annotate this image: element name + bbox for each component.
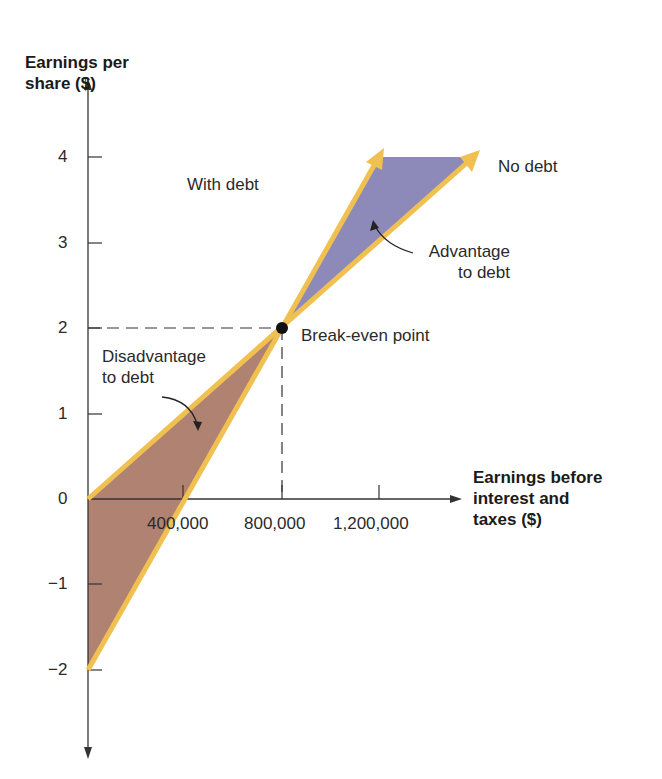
x-tick-label: 800,000 (244, 514, 305, 534)
disadvantage-label: Disadvantage to debt (102, 346, 206, 388)
with-debt-label: With debt (187, 174, 259, 195)
y-tick-label: 2 (58, 318, 67, 338)
break-even-label: Break-even point (301, 325, 430, 346)
x-axis-arrow (450, 495, 462, 503)
disadvantage-label-line1: Disadvantage (102, 346, 206, 367)
y-axis-arrow-down (84, 747, 92, 759)
break-even-point (276, 322, 288, 334)
advantage-label: Advantage to debt (423, 241, 510, 283)
y-tick-label: 3 (58, 233, 67, 253)
advantage-label-line2: to debt (423, 262, 510, 283)
y-tick-label: 1 (58, 404, 67, 424)
x-tick-label: 400,000 (147, 514, 208, 534)
no-debt-label: No debt (498, 156, 558, 177)
advantage-label-line1: Advantage (423, 241, 510, 262)
x-axis-title: Earnings before interest and taxes ($) (473, 467, 602, 530)
y-axis-title-line1: Earnings per (25, 52, 129, 73)
y-tick-label: −1 (48, 574, 67, 594)
y-tick-label: −2 (48, 660, 67, 680)
disadvantage-label-line2: to debt (102, 367, 206, 388)
x-tick-label: 1,200,000 (333, 514, 409, 534)
x-axis-title-line2: interest and (473, 488, 602, 509)
with-debt-line (88, 162, 376, 670)
x-axis-title-line3: taxes ($) (473, 509, 602, 530)
y-tick-label: 4 (58, 147, 67, 167)
y-axis-title-line2: share ($) (25, 73, 129, 94)
x-axis-title-line1: Earnings before (473, 467, 602, 488)
y-axis-title: Earnings per share ($) (25, 52, 129, 94)
y-tick-label: 0 (58, 489, 67, 509)
x-ticks (183, 485, 379, 499)
chart-canvas (0, 0, 662, 779)
